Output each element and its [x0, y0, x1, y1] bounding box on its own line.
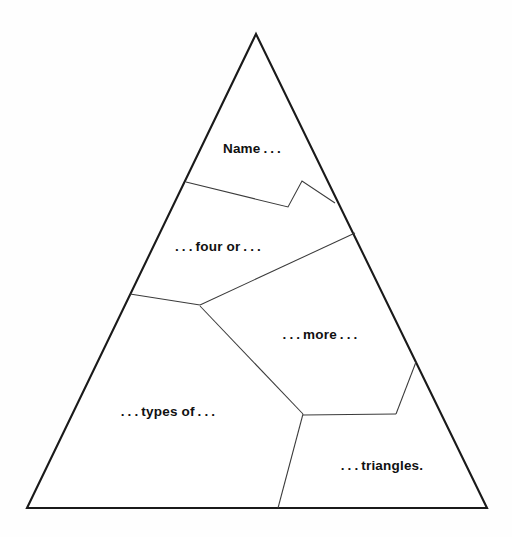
region-label-four-or: . . . four or . . . [175, 239, 261, 254]
worksheet-canvas: Name . . . . . . four or . . . . . . mor… [0, 0, 512, 537]
triangle-diagram [0, 0, 512, 537]
region-label-more: . . . more . . . [283, 327, 358, 342]
region-label-name: Name . . . [223, 141, 281, 156]
region-label-types-of: . . . types of . . . [121, 404, 215, 419]
region-label-triangles: . . . triangles. [341, 458, 424, 473]
triangle-outline [27, 34, 487, 508]
